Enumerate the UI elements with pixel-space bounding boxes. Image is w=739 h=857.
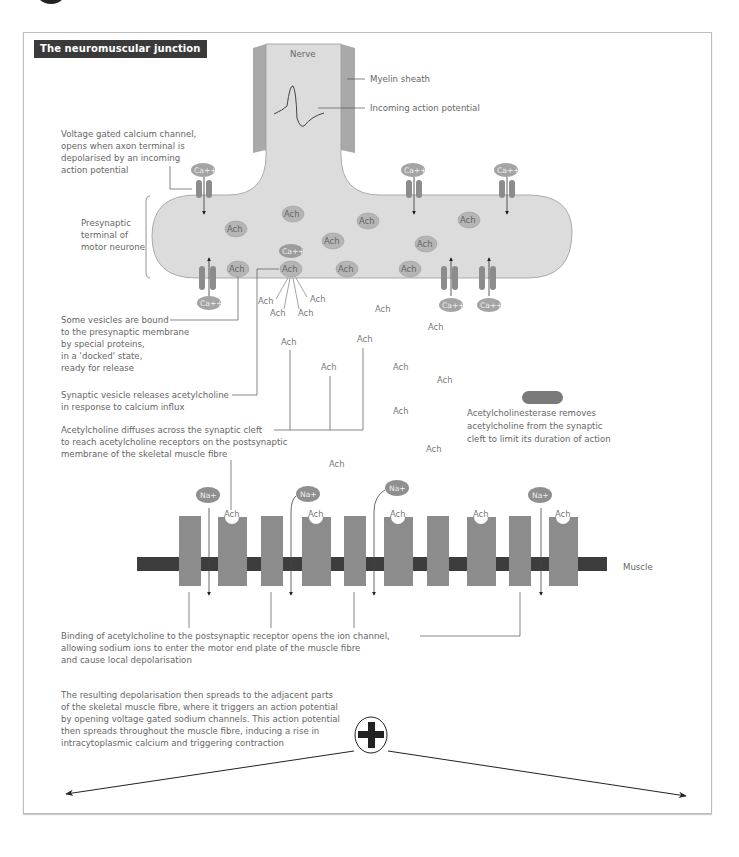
svg-text:motor neurone: motor neurone — [81, 242, 145, 252]
nerve-label: Nerve — [290, 49, 316, 59]
vesicle-releasing: Ca++ — [279, 244, 305, 258]
svg-text:Presynaptic: Presynaptic — [81, 218, 131, 228]
svg-text:Ach: Ach — [473, 509, 489, 519]
svg-text:opens when axon terminal is: opens when axon terminal is — [61, 141, 185, 151]
svg-text:Ach: Ach — [338, 264, 354, 274]
svg-text:Synaptic vesicle releases acet: Synaptic vesicle releases acetylcholine — [61, 390, 229, 400]
svg-text:Ach: Ach — [357, 334, 373, 344]
svg-text:Ca++: Ca++ — [404, 166, 427, 175]
vesicle: Ach — [282, 206, 304, 222]
svg-text:Voltage gated calcium channel,: Voltage gated calcium channel, — [61, 129, 196, 139]
svg-text:Some vesicles are bound: Some vesicles are bound — [61, 315, 169, 325]
spread-arrow-right — [388, 751, 686, 796]
neuromuscular-junction-diagram: Nerve Myelin sheath Incoming action pote… — [0, 0, 739, 857]
acetylcholinesterase-caption: Acetylcholinesterase removes acetylcholi… — [467, 408, 611, 444]
svg-text:acetylcholine from the synapti: acetylcholine from the synaptic — [467, 421, 603, 431]
diffusion-bracket — [274, 348, 363, 430]
svg-text:Na+: Na+ — [532, 491, 549, 500]
svg-text:Ca++: Ca++ — [194, 166, 217, 175]
svg-text:Ach: Ach — [426, 444, 442, 454]
svg-text:in response to calcium influx: in response to calcium influx — [61, 402, 185, 412]
svg-text:Ach: Ach — [321, 362, 337, 372]
svg-text:Ach: Ach — [460, 215, 476, 225]
diffusion-caption: Acetylcholine diffuses across the synapt… — [61, 425, 288, 459]
svg-text:membrane of the skeletal muscl: membrane of the skeletal muscle fibre — [61, 449, 227, 459]
presynaptic-terminal-label: Presynaptic terminal of motor neurone — [81, 218, 145, 252]
svg-text:Ach: Ach — [281, 337, 297, 347]
calcium-channel-caption: Voltage gated calcium channel, opens whe… — [61, 129, 196, 175]
svg-text:Ach: Ach — [393, 362, 409, 372]
acetylcholinesterase-enzyme — [522, 391, 563, 404]
svg-text:cleft to limit its duration of: cleft to limit its duration of action — [467, 434, 611, 444]
svg-text:Ach: Ach — [229, 264, 245, 274]
spread-arrow-left — [66, 751, 354, 794]
vesicle: Ach — [225, 221, 247, 237]
svg-text:terminal of: terminal of — [81, 230, 129, 240]
svg-text:action potential: action potential — [61, 165, 128, 175]
svg-text:Ach: Ach — [375, 304, 391, 314]
svg-text:Ach: Ach — [417, 239, 433, 249]
svg-text:Ach: Ach — [258, 296, 274, 306]
muscle-label: Muscle — [623, 562, 653, 572]
svg-text:depolarised by an incoming: depolarised by an incoming — [61, 153, 180, 163]
svg-text:allowing sodium ions to enter: allowing sodium ions to enter the motor … — [61, 643, 360, 653]
svg-text:to the presynaptic membrane: to the presynaptic membrane — [61, 327, 189, 337]
spread-caption: The resulting depolarisation then spread… — [60, 690, 340, 748]
svg-text:Ca++: Ca++ — [442, 301, 465, 310]
vesicle: Ach — [458, 212, 480, 228]
muscle-membrane — [137, 510, 607, 586]
ach-release-lines — [276, 278, 307, 309]
svg-text:to reach acetylcholine recepto: to reach acetylcholine receptors on the … — [61, 437, 288, 447]
svg-text:then spreads throughout the mu: then spreads throughout the muscle fibre… — [61, 726, 319, 736]
svg-text:and cause local depolarisation: and cause local depolarisation — [61, 655, 192, 665]
svg-text:Ach: Ach — [324, 236, 340, 246]
svg-text:Ca++: Ca++ — [282, 247, 305, 256]
vesicle: Ach — [415, 236, 437, 252]
sodium-ions: Na+ Na+ Na+ Na+ — [196, 480, 552, 595]
svg-text:Ach: Ach — [282, 264, 298, 274]
svg-text:Na+: Na+ — [389, 484, 406, 493]
vesicle-docked: Ach — [227, 261, 249, 277]
myelin-sheath-label: Myelin sheath — [370, 74, 430, 84]
svg-text:Ach: Ach — [227, 224, 243, 234]
svg-text:by opening voltage gated sodiu: by opening voltage gated sodium channels… — [61, 714, 340, 724]
svg-text:Ach: Ach — [390, 509, 406, 519]
svg-text:of the skeletal muscle fibre,: of the skeletal muscle fibre, where it t… — [61, 702, 338, 712]
svg-text:Ca++: Ca++ — [497, 166, 520, 175]
svg-text:Ach: Ach — [329, 459, 345, 469]
svg-text:Ach: Ach — [555, 509, 571, 519]
svg-text:in a 'docked' state,: in a 'docked' state, — [61, 351, 142, 361]
svg-text:Acetylcholinesterase removes: Acetylcholinesterase removes — [467, 408, 597, 418]
svg-text:Ach: Ach — [401, 264, 417, 274]
svg-text:Na+: Na+ — [200, 491, 217, 500]
plus-icon — [355, 717, 387, 753]
svg-text:Ach: Ach — [270, 308, 286, 318]
vesicle-releasing: Ach — [280, 261, 302, 277]
svg-text:by special proteins,: by special proteins, — [61, 339, 145, 349]
vesicle-docked: Ach — [336, 261, 358, 277]
vesicle-release-caption: Synaptic vesicle releases acetylcholine … — [61, 390, 229, 412]
action-potential-label: Incoming action potential — [370, 103, 480, 113]
svg-text:Ach: Ach — [224, 509, 240, 519]
docked-vesicles-caption: Some vesicles are bound to the presynapt… — [61, 315, 189, 373]
svg-text:Acetylcholine diffuses across: Acetylcholine diffuses across the synapt… — [61, 425, 263, 435]
svg-text:Ach: Ach — [298, 308, 314, 318]
vesicle-docked: Ach — [399, 261, 421, 277]
vesicle: Ach — [322, 233, 344, 249]
svg-text:Binding of acetylcholine to th: Binding of acetylcholine to the postsyna… — [61, 631, 390, 641]
svg-text:Ca++: Ca++ — [480, 301, 503, 310]
svg-text:Ach: Ach — [308, 509, 324, 519]
vesicle: Ach — [357, 213, 379, 229]
svg-text:Ach: Ach — [393, 406, 409, 416]
svg-text:Ach: Ach — [437, 375, 453, 385]
svg-text:Ach: Ach — [359, 216, 375, 226]
svg-text:The resulting depolarisation t: The resulting depolarisation then spread… — [60, 690, 334, 700]
svg-text:Ach: Ach — [310, 294, 326, 304]
svg-text:ready for release: ready for release — [61, 363, 134, 373]
svg-text:intracytoplasmic calcium and t: intracytoplasmic calcium and triggering … — [61, 738, 284, 748]
svg-text:Ach: Ach — [284, 209, 300, 219]
svg-text:Na+: Na+ — [300, 490, 317, 499]
svg-text:Ach: Ach — [428, 322, 444, 332]
binding-bracket — [189, 592, 520, 636]
binding-caption: Binding of acetylcholine to the postsyna… — [61, 631, 390, 665]
